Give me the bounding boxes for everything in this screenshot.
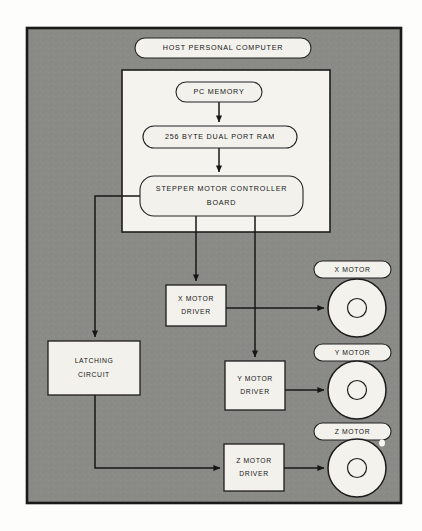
z-motor-pill-shape [314,423,391,440]
y-motor-pill-shape [314,344,391,361]
block-diagram-canvas: HOST PERSONAL COMPUTER PC MEMORY 256 BYT… [0,0,422,531]
node-y-motor-driver[interactable]: Y MOTOR DRIVER [225,361,285,410]
x-motor-pill-shape [314,261,391,278]
x-motor-driver-box-shape [166,285,226,326]
latching-circuit-box-shape [48,341,140,395]
node-latching-circuit[interactable]: LATCHING CIRCUIT [48,341,140,395]
node-x-motor-driver[interactable]: X MOTOR DRIVER [166,285,226,326]
pc-memory-pill-shape [176,82,262,102]
node-pc-memory[interactable]: PC MEMORY [176,82,262,102]
y-motor-shaft-icon [348,381,367,400]
host-computer-pill-shape [135,38,311,58]
node-stepper-motor-controller-board[interactable]: STEPPER MOTOR CONTROLLER BOARD [140,176,303,216]
node-z-motor-driver[interactable]: Z MOTOR DRIVER [224,444,284,491]
dual-port-ram-pill-shape [143,126,297,148]
z-motor-shaft-icon [348,459,367,478]
stepper-motor-system-diagram: HOST PERSONAL COMPUTER PC MEMORY 256 BYT… [0,0,422,531]
x-motor-shaft-icon [348,299,367,318]
stepper-controller-pill-shape [140,176,303,216]
z-motor-driver-box-shape [224,444,284,491]
node-dual-port-ram[interactable]: 256 BYTE DUAL PORT RAM [143,126,297,148]
scan-artifact-speck [379,439,385,446]
node-host-personal-computer[interactable]: HOST PERSONAL COMPUTER [135,38,311,58]
y-motor-driver-box-shape [225,361,285,410]
